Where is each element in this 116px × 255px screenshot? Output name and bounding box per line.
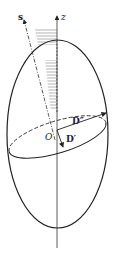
origin-label: O (45, 132, 53, 142)
d-prime-label: D′ (66, 134, 77, 144)
s-label: s (18, 12, 23, 22)
hatched-region (20, 30, 60, 108)
z-label: z (60, 12, 66, 22)
ellipsoid-diagram: s z O D″ D′ (0, 0, 116, 255)
section-ellipse (5, 107, 111, 167)
d-double-prime-label: D″ (72, 116, 84, 126)
ellipsoid-outline (7, 40, 108, 228)
s-vector (24, 20, 55, 140)
d-prime-vector (57, 130, 63, 147)
